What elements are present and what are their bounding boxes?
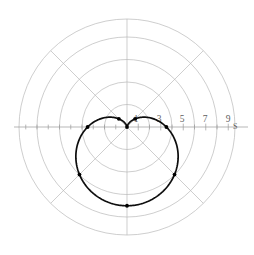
polar-plot-figure: 1 3 5 7 9 S [0, 0, 254, 255]
polar-chart-canvas: 1 3 5 7 9 S [0, 0, 254, 255]
data-point-theta180 [86, 125, 90, 129]
data-point-theta270 [125, 204, 129, 208]
polar-axis-horizontal [14, 124, 248, 131]
data-point-theta135 [117, 117, 121, 121]
tick-label-5: 5 [180, 114, 185, 124]
data-point-theta315 [173, 173, 177, 177]
data-point-theta45 [133, 117, 137, 121]
data-point-theta90 [125, 125, 129, 129]
data-point-theta225 [78, 173, 82, 177]
axis-name-label: S [233, 122, 237, 131]
data-point-theta0 [164, 125, 168, 129]
tick-label-7: 7 [203, 114, 208, 124]
tick-label-9: 9 [226, 114, 231, 124]
